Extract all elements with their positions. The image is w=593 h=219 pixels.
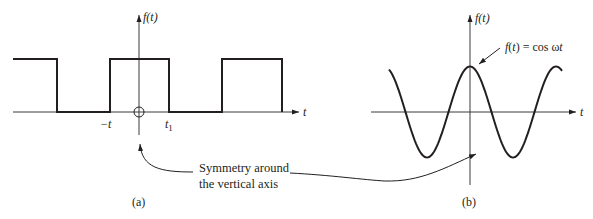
y-axis-label-a: f(t) xyxy=(143,10,158,24)
x-axis-label-a: t xyxy=(303,105,307,119)
tick-label-t1: t1 xyxy=(165,117,173,133)
curve-label: f(t) = cos ωt xyxy=(505,40,563,54)
square-wave xyxy=(13,59,282,112)
annotation-line-1: Symmetry around xyxy=(199,161,290,175)
annotation-arrow-left xyxy=(140,144,193,172)
curve-label-arrow xyxy=(479,48,500,64)
panel-b: f(t) = cos ωt f(t) t (b) xyxy=(371,11,584,209)
annotation-line-2: the vertical axis xyxy=(199,177,278,191)
figure: f(t) t −t t1 (a) f(t) = cos ωt f(t) t (b… xyxy=(0,0,593,219)
annotation-arrow-right xyxy=(290,154,476,181)
tick-label-neg-t: −t xyxy=(100,117,112,131)
caption-a: (a) xyxy=(132,195,145,209)
symmetry-annotation: Symmetry around the vertical axis xyxy=(140,144,476,191)
caption-b: (b) xyxy=(462,195,476,209)
y-axis-label-b: f(t) xyxy=(475,11,490,25)
tick-label-t1-subscript: 1 xyxy=(168,123,173,133)
x-axis-label-b: t xyxy=(580,105,584,119)
